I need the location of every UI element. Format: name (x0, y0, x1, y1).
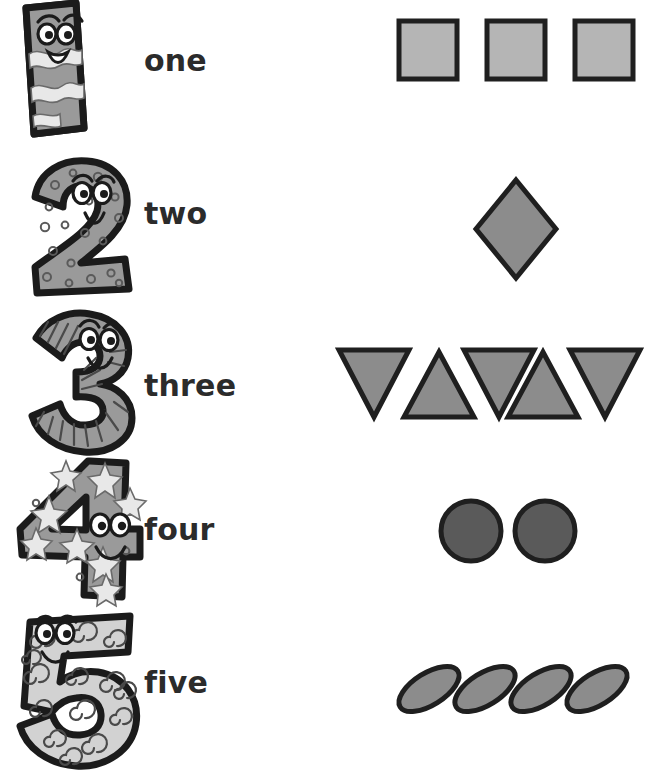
numeral-two-glyph (35, 161, 129, 293)
word-label-four: four (144, 512, 215, 547)
counting-row-one: one (0, 0, 652, 155)
numeral-three (22, 308, 157, 456)
numeral-four (14, 455, 149, 605)
numeral-two (25, 155, 160, 305)
word-label-two: two (144, 196, 207, 231)
shape-circle (515, 501, 575, 561)
shape-group-circles (438, 497, 578, 567)
worksheet-page: one (0, 0, 652, 781)
shape-square (575, 21, 633, 79)
shape-group-squares (396, 18, 644, 88)
shape-group-ellipses (398, 644, 626, 734)
counting-row-four: four (0, 455, 652, 610)
counting-row-two: two (0, 155, 652, 310)
numeral-five-glyph (20, 616, 137, 766)
shape-triangle-up (404, 352, 474, 417)
shape-square (399, 21, 457, 79)
shape-circle (441, 501, 501, 561)
numeral-four-glyph (20, 461, 146, 606)
shape-group-diamond (472, 176, 560, 286)
numeral-one-glyph (26, 3, 84, 134)
word-label-five: five (144, 665, 208, 700)
shape-triangle-down (339, 350, 409, 417)
shape-ellipse (448, 657, 523, 720)
shape-square (487, 21, 545, 79)
shape-ellipse (560, 657, 635, 720)
counting-row-three: three (0, 308, 652, 458)
shape-group-triangles (336, 345, 646, 425)
word-label-one: one (144, 43, 207, 78)
shape-triangle-down (570, 350, 640, 417)
numeral-three-glyph (32, 313, 132, 452)
shape-ellipse (504, 657, 579, 720)
numeral-five (8, 608, 143, 776)
shape-diamond (476, 180, 556, 278)
numeral-one (10, 0, 145, 150)
shape-ellipse (392, 657, 467, 720)
counting-row-five: five (0, 608, 652, 781)
word-label-three: three (144, 368, 236, 403)
